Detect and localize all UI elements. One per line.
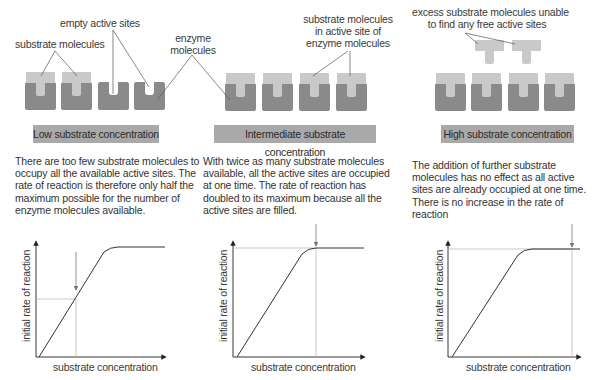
- graph-low: [36, 243, 165, 357]
- rate-graphs: [0, 0, 599, 380]
- y-axis-label-intermediate: initial rate of reaction: [217, 250, 229, 342]
- y-axis-label-high: initial rate of reaction: [433, 250, 445, 342]
- graph-intermediate: [233, 224, 364, 357]
- x-axis-label-intermediate: substrate concentration: [251, 361, 356, 373]
- x-axis-label-high: substrate concentration: [466, 361, 571, 373]
- graph-high: [448, 224, 580, 357]
- x-axis-label-low: substrate concentration: [53, 361, 158, 373]
- y-axis-label-low: initial rate of reaction: [20, 250, 32, 342]
